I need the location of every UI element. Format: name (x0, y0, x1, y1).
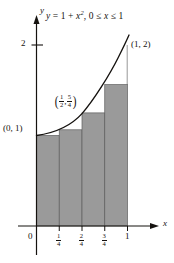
x-tick-label-one-quarter: 1 4 (56, 231, 61, 248)
fraction-denominator: 4 (79, 241, 84, 248)
fraction-denominator: 2 (59, 102, 64, 109)
rectangle-1 (37, 136, 60, 227)
caption-domain-upper: 1 (119, 11, 124, 21)
x-tick-label-0: 0 (28, 232, 33, 241)
x-tick-label-two-quarters: 2 4 (79, 231, 84, 248)
fraction-two-quarters: 2 4 (79, 233, 84, 248)
x-axis-label: x (163, 219, 167, 228)
point-label-midpoint: ( 1 2 , 5 4 ) (54, 94, 77, 109)
fraction-one-quarter: 1 4 (56, 233, 61, 248)
riemann-sum-figure: y = 1 + x2, 0 ≤ x ≤ 1 y x 2 0 1 4 2 4 3 … (0, 0, 174, 263)
fraction-denominator: 4 (102, 241, 107, 248)
fraction-three-quarters: 3 4 (102, 233, 107, 248)
close-paren: ) (73, 95, 77, 107)
rectangle-3 (82, 113, 105, 226)
point-label-origin: (0, 1) (3, 124, 23, 133)
rectangle-2 (59, 130, 82, 226)
rectangle-4 (105, 85, 128, 226)
fraction-denominator: 4 (67, 102, 72, 109)
y-tick-label-2: 2 (21, 39, 26, 48)
fraction-one-half: 1 2 (59, 94, 64, 109)
point-label-endpoint: (1, 2) (131, 40, 151, 49)
open-paren: ( (55, 95, 59, 107)
riemann-rectangles (37, 85, 128, 226)
x-tick-label-1: 1 (125, 232, 130, 241)
y-axis-label: y (40, 6, 44, 15)
x-tick-label-three-quarters: 3 4 (102, 231, 107, 248)
fraction-five-quarters: 5 4 (67, 94, 72, 109)
equation-caption: y = 1 + x2, 0 ≤ x ≤ 1 (46, 12, 123, 22)
fraction-denominator: 4 (56, 241, 61, 248)
